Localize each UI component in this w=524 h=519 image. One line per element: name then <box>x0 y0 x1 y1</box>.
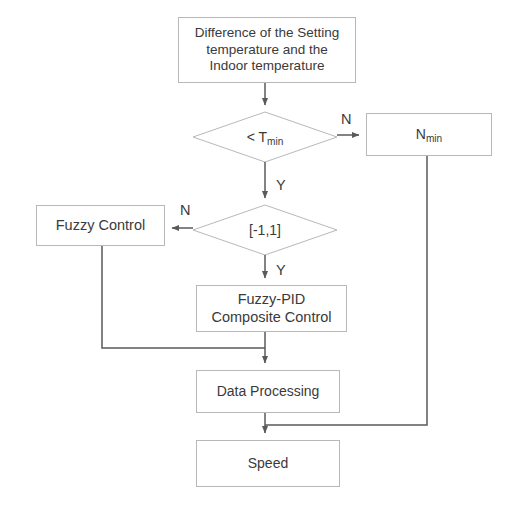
edge-label-range-no: N <box>180 203 190 218</box>
decision-range-shape <box>193 205 337 255</box>
node-data-processing-label: Data Processing <box>197 383 339 400</box>
node-fuzzy-pid-label: Fuzzy-PID Composite Control <box>197 291 346 326</box>
decision-tmin-shape <box>193 112 337 162</box>
node-fuzzy-pid-composite-control: Fuzzy-PID Composite Control <box>196 285 347 332</box>
edge-label-range-yes: Y <box>276 263 286 278</box>
edge-label-tmin-yes: Y <box>276 178 286 193</box>
node-data-processing: Data Processing <box>196 370 340 413</box>
node-speed-label: Speed <box>197 455 339 472</box>
node-nmin-label: Nmin <box>367 126 491 143</box>
edge-label-tmin-no: N <box>341 112 351 127</box>
node-fuzzy-control-label: Fuzzy Control <box>37 217 164 235</box>
node-input-label: Difference of the Setting temperature an… <box>179 25 355 74</box>
node-nmin: Nmin <box>366 113 492 156</box>
node-speed: Speed <box>196 440 340 487</box>
flowchart-canvas: Difference of the Setting temperature an… <box>0 0 524 519</box>
node-fuzzy-control: Fuzzy Control <box>36 205 165 246</box>
node-input-difference: Difference of the Setting temperature an… <box>178 17 356 83</box>
node-nmin-subscript: min <box>426 133 442 144</box>
